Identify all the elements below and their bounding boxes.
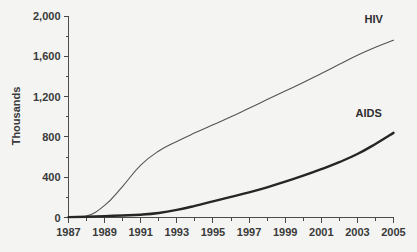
x-tick-label: 1995 — [201, 226, 225, 238]
x-tick-label: 2005 — [381, 226, 405, 238]
x-tick-label: 1993 — [165, 226, 189, 238]
y-tick-label: 2,000 — [33, 10, 61, 22]
chart-background — [0, 0, 417, 252]
x-tick-label: 1991 — [128, 226, 152, 238]
line-chart: 04008001,2001,6002,000 Thousands 1987198… — [0, 0, 417, 252]
series-label-aids: AIDS — [356, 107, 382, 119]
y-axis-title: Thousands — [10, 87, 22, 146]
y-tick-label: 400 — [42, 171, 60, 183]
y-tick-label: 800 — [42, 131, 60, 143]
y-tick-label: 1,200 — [33, 91, 61, 103]
x-tick-label: 1997 — [237, 226, 261, 238]
x-tick-label: 2001 — [309, 226, 333, 238]
x-tick-label: 1987 — [56, 226, 80, 238]
x-tick-label: 1989 — [92, 226, 116, 238]
chart-container: 04008001,2001,6002,000 Thousands 1987198… — [0, 0, 417, 252]
x-tick-label: 2003 — [345, 226, 369, 238]
series-label-hiv: HIV — [365, 13, 384, 25]
y-tick-label: 1,600 — [33, 50, 61, 62]
y-tick-label: 0 — [54, 212, 60, 224]
x-tick-label: 1999 — [273, 226, 297, 238]
